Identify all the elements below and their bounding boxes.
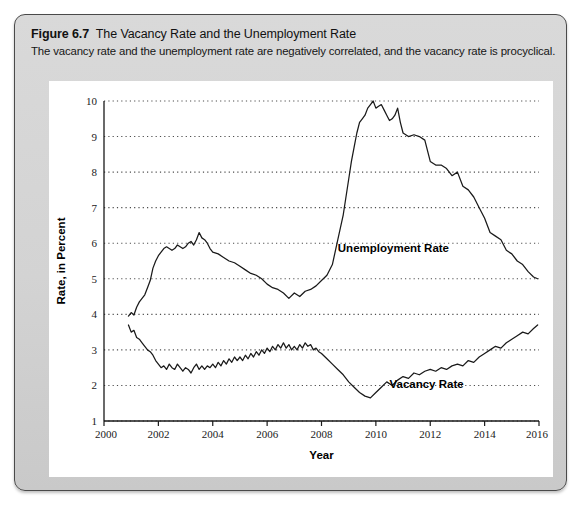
y-axis-title: Rate, in Percent — [55, 217, 67, 304]
series-group — [128, 101, 537, 398]
line-chart: 12345678910 2000200220042006200820102012… — [49, 81, 553, 477]
figure-subtitle: The vacancy rate and the unemployment ra… — [31, 45, 552, 57]
y-tick-label-7: 7 — [92, 202, 98, 214]
y-tick-label-9: 9 — [92, 131, 98, 143]
figure-panel: Figure 6.7 The Vacancy Rate and the Unem… — [14, 14, 567, 491]
x-tick-label-2006: 2006 — [256, 428, 279, 440]
x-tick-group — [104, 421, 539, 426]
figure-title: Figure 6.7 The Vacancy Rate and the Unem… — [31, 27, 552, 41]
figure-caption: Figure 6.7 The Vacancy Rate and the Unem… — [31, 27, 552, 57]
x-tick-label-2016: 2016 — [526, 428, 549, 440]
annotation-group: Unemployment RateVacancy Rate — [338, 242, 464, 390]
x-tick-label-2000: 2000 — [95, 428, 118, 440]
chart-plot-area: 12345678910 2000200220042006200820102012… — [49, 81, 553, 477]
y-tick-label-6: 6 — [92, 237, 98, 249]
x-tick-label-2002: 2002 — [147, 428, 169, 440]
y-tick-label-group: 12345678910 — [86, 95, 98, 427]
x-tick-label-2012: 2012 — [419, 428, 441, 440]
y-tick-label-3: 3 — [92, 344, 98, 356]
y-tick-label-4: 4 — [92, 308, 98, 320]
series-line-vacancy-rate — [128, 325, 537, 398]
y-tick-label-1: 1 — [92, 415, 98, 427]
series-line-unemployment-rate — [128, 101, 537, 316]
annotation-vacancy-rate: Vacancy Rate — [389, 378, 463, 390]
y-tick-label-2: 2 — [92, 379, 98, 391]
x-tick-label-2008: 2008 — [311, 428, 334, 440]
x-tick-label-2014: 2014 — [474, 428, 497, 440]
gridlines-group — [104, 101, 539, 421]
figure-number: Figure 6.7 — [31, 27, 89, 41]
x-axis-title: Year — [309, 449, 334, 461]
axes-group — [104, 101, 539, 421]
y-tick-label-8: 8 — [92, 166, 98, 178]
annotation-unemployment-rate: Unemployment Rate — [338, 242, 449, 254]
y-tick-label-5: 5 — [92, 273, 98, 285]
y-tick-label-10: 10 — [86, 95, 98, 107]
x-tick-label-2004: 2004 — [202, 428, 225, 440]
x-tick-label-group: 200020022004200620082010201220142016 — [95, 428, 549, 440]
x-tick-label-2010: 2010 — [365, 428, 388, 440]
figure-title-text: The Vacancy Rate and the Unemployment Ra… — [96, 27, 356, 41]
